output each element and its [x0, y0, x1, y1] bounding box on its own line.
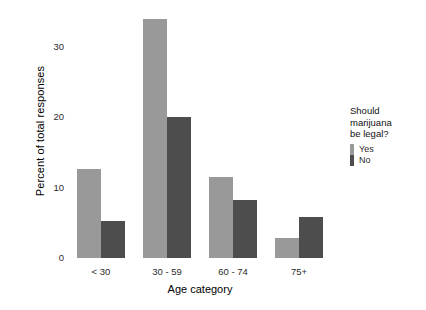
bar-yes — [143, 19, 167, 258]
x-axis-tick-label: 60 - 74 — [200, 266, 266, 277]
bar-group — [143, 12, 192, 258]
y-axis-tick-label: 30 — [36, 42, 64, 52]
x-axis-tick-label: 30 - 59 — [134, 266, 200, 277]
legend-label: No — [359, 155, 371, 166]
legend-title: Should marijuana be legal? — [350, 105, 424, 140]
legend-label: Yes — [359, 144, 374, 155]
bar-yes — [77, 169, 101, 258]
plot-area — [68, 12, 332, 258]
x-axis-tick-label: 75+ — [266, 266, 332, 277]
bar-yes — [275, 238, 299, 258]
bar-chart-figure: Percent of total responses 0102030 < 303… — [0, 0, 426, 310]
bar-no — [167, 117, 191, 258]
bar-group — [275, 12, 324, 258]
legend: Should marijuana be legal? YesNo — [350, 105, 424, 166]
bar-no — [101, 221, 125, 258]
legend-swatch-icon — [350, 155, 354, 166]
bar-group — [77, 12, 126, 258]
y-axis-tick-label: 0 — [36, 253, 64, 263]
legend-swatch-icon — [350, 144, 354, 155]
y-axis-tick-labels: 0102030 — [36, 0, 64, 310]
bar-group — [209, 12, 258, 258]
bar-no — [299, 217, 323, 258]
y-axis-tick-label: 10 — [36, 183, 64, 193]
bar-yes — [209, 177, 233, 258]
legend-items: YesNo — [350, 144, 424, 166]
legend-title-line-1: Should — [350, 105, 424, 117]
legend-item: No — [350, 155, 424, 166]
bar-no — [233, 200, 257, 258]
y-axis-tick-label: 20 — [36, 112, 64, 122]
x-axis-title: Age category — [68, 283, 332, 295]
legend-title-line-2: marijuana — [350, 117, 424, 129]
x-axis-tick-label: < 30 — [68, 266, 134, 277]
legend-item: Yes — [350, 144, 424, 155]
legend-title-line-3: be legal? — [350, 128, 424, 140]
